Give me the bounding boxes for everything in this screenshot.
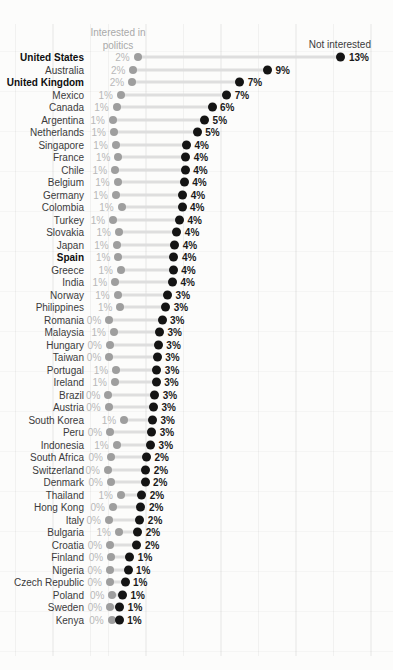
interested-dot[interactable] (112, 191, 120, 199)
interested-dot[interactable] (116, 303, 124, 311)
not-interested-dot[interactable] (169, 265, 178, 274)
not-interested-dot[interactable] (263, 65, 272, 74)
interested-dot[interactable] (107, 478, 115, 486)
interested-dot[interactable] (107, 553, 115, 561)
not-interested-dot[interactable] (181, 153, 190, 162)
interested-dot[interactable] (107, 453, 115, 461)
not-interested-dot[interactable] (135, 515, 144, 524)
not-interested-dot[interactable] (169, 253, 178, 262)
not-interested-dot[interactable] (163, 290, 172, 299)
interested-dot[interactable] (113, 241, 121, 249)
chart-row: Hungary0%3% (0, 338, 393, 351)
interested-dot[interactable] (111, 378, 119, 386)
not-interested-dot[interactable] (137, 490, 146, 499)
interested-dot[interactable] (117, 266, 125, 274)
connector-line (113, 118, 205, 121)
not-interested-dot[interactable] (136, 503, 145, 512)
interested-dot[interactable] (129, 66, 137, 74)
not-interested-dot[interactable] (133, 528, 142, 537)
not-interested-dot[interactable] (155, 328, 164, 337)
interested-dot[interactable] (104, 391, 112, 399)
not-interested-dot[interactable] (150, 390, 159, 399)
interested-dot[interactable] (110, 328, 118, 336)
not-interested-dot[interactable] (178, 203, 187, 212)
not-interested-value-label: 1% (138, 552, 152, 563)
interested-dot[interactable] (106, 541, 114, 549)
interested-dot[interactable] (109, 503, 117, 511)
not-interested-dot[interactable] (152, 378, 161, 387)
interested-dot[interactable] (110, 128, 118, 136)
not-interested-dot[interactable] (208, 103, 217, 112)
not-interested-dot[interactable] (181, 165, 190, 174)
interested-dot[interactable] (114, 253, 122, 261)
not-interested-dot[interactable] (172, 228, 181, 237)
not-interested-dot[interactable] (168, 278, 177, 287)
interested-dot[interactable] (113, 441, 121, 449)
not-interested-dot[interactable] (141, 465, 150, 474)
interested-dot[interactable] (128, 78, 136, 86)
not-interested-value-label: 6% (220, 102, 234, 113)
interested-dot[interactable] (114, 291, 122, 299)
not-interested-dot[interactable] (175, 215, 184, 224)
chart-row: Thailand1%2% (0, 488, 393, 501)
interested-dot[interactable] (114, 178, 122, 186)
not-interested-dot[interactable] (154, 340, 163, 349)
interested-dot[interactable] (105, 353, 113, 361)
not-interested-dot[interactable] (235, 78, 244, 87)
interested-dot[interactable] (115, 528, 123, 536)
not-interested-dot[interactable] (222, 90, 231, 99)
interested-dot[interactable] (112, 366, 120, 374)
interested-dot[interactable] (120, 416, 128, 424)
not-interested-dot[interactable] (200, 115, 209, 124)
not-interested-dot[interactable] (336, 53, 345, 62)
not-interested-dot[interactable] (124, 565, 133, 574)
interested-dot[interactable] (106, 603, 114, 611)
not-interested-dot[interactable] (193, 128, 202, 137)
chart-row: Portugal1%3% (0, 363, 393, 376)
interested-dot[interactable] (106, 341, 114, 349)
not-interested-dot[interactable] (180, 178, 189, 187)
not-interested-dot[interactable] (115, 603, 124, 612)
interested-dot[interactable] (108, 591, 116, 599)
interested-dot[interactable] (106, 566, 114, 574)
interested-dot[interactable] (117, 491, 125, 499)
interested-dot[interactable] (117, 91, 125, 99)
not-interested-dot[interactable] (149, 403, 158, 412)
interested-dot[interactable] (134, 53, 142, 61)
interested-dot[interactable] (109, 116, 117, 124)
not-interested-dot[interactable] (132, 540, 141, 549)
not-interested-dot[interactable] (121, 578, 130, 587)
interested-dot[interactable] (114, 153, 122, 161)
interested-dot[interactable] (109, 216, 117, 224)
not-interested-dot[interactable] (146, 440, 155, 449)
not-interested-dot[interactable] (178, 190, 187, 199)
interested-dot[interactable] (105, 316, 113, 324)
not-interested-dot[interactable] (118, 590, 127, 599)
chart-row: Peru0%3% (0, 426, 393, 439)
interested-dot[interactable] (106, 578, 114, 586)
not-interested-dot[interactable] (141, 478, 150, 487)
interested-dot[interactable] (113, 103, 121, 111)
not-interested-value-label: 4% (182, 252, 196, 263)
not-interested-dot[interactable] (142, 453, 151, 462)
interested-dot[interactable] (115, 228, 123, 236)
not-interested-dot[interactable] (152, 365, 161, 374)
interested-dot[interactable] (104, 466, 112, 474)
interested-dot[interactable] (118, 203, 126, 211)
not-interested-dot[interactable] (153, 353, 162, 362)
not-interested-dot[interactable] (125, 553, 134, 562)
interested-dot[interactable] (111, 278, 119, 286)
not-interested-value-label: 7% (248, 77, 262, 88)
interested-dot[interactable] (106, 428, 114, 436)
interested-dot[interactable] (105, 403, 113, 411)
interested-dot[interactable] (111, 166, 119, 174)
interested-dot[interactable] (105, 516, 113, 524)
not-interested-dot[interactable] (182, 140, 191, 149)
not-interested-dot[interactable] (147, 428, 156, 437)
not-interested-dot[interactable] (148, 415, 157, 424)
interested-dot[interactable] (112, 141, 120, 149)
not-interested-dot[interactable] (158, 315, 167, 324)
not-interested-dot[interactable] (161, 303, 170, 312)
not-interested-dot[interactable] (115, 615, 124, 624)
not-interested-dot[interactable] (170, 240, 179, 249)
